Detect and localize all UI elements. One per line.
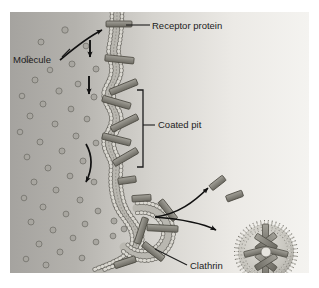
- endocytosis-diagram: Receptor protein Molecule Coated pit Cla…: [10, 12, 309, 273]
- label-receptor-protein: Receptor protein: [152, 20, 222, 31]
- diagram-canvas: Receptor protein Molecule Coated pit Cla…: [10, 12, 309, 273]
- clathrin-bar: [132, 194, 151, 202]
- vesicle-hub: [261, 247, 271, 257]
- label-clathrin: Clathrin: [190, 260, 223, 271]
- clathrin-bar: [147, 224, 178, 232]
- receptor-protein-bar: [106, 21, 132, 27]
- label-molecule: Molecule: [13, 54, 51, 65]
- label-coated-pit: Coated pit: [158, 119, 202, 130]
